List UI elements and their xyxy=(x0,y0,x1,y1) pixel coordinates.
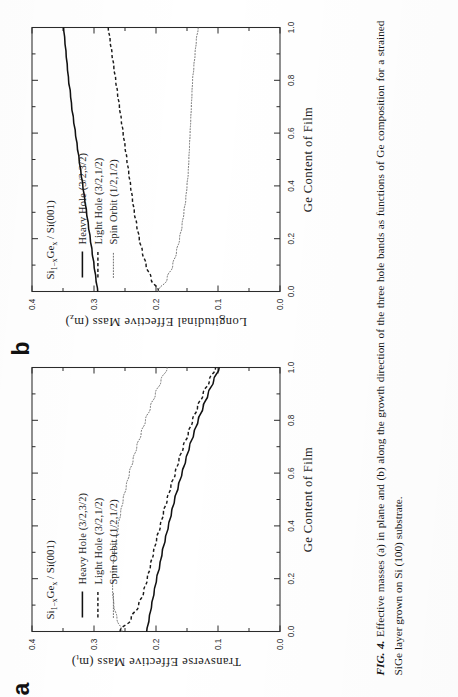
x-tick-label: 0.6 xyxy=(286,466,296,478)
panel-label-a: a xyxy=(8,683,35,695)
curve-solid xyxy=(147,367,220,631)
svg-text:Transverse Effective Mass (mt): Transverse Effective Mass (mt) xyxy=(71,652,240,668)
caption-body: Effective masses (a) in plane and (b) al… xyxy=(374,20,404,675)
x-tick-label: 0.6 xyxy=(286,126,296,138)
figure-caption: FIG. 4. Effective masses (a) in plane an… xyxy=(372,20,407,675)
y-axis-title: Longitudinal Effective Mass (mz) xyxy=(65,312,247,328)
x-axis-title: Ge Content of Film xyxy=(301,446,315,552)
x-tick-label: 1.0 xyxy=(286,21,296,33)
curve-dotted xyxy=(158,27,198,291)
legend-label: Light Hole (3/2,1/2) xyxy=(93,157,105,244)
svg-text:Longitudinal Effective Mass (m: Longitudinal Effective Mass (mz) xyxy=(65,312,247,328)
chart-panel-a: 0.00.20.40.60.81.00.00.10.20.30.4Ge Cont… xyxy=(18,357,348,675)
y-tick-label: 0.1 xyxy=(213,638,223,650)
plot-annotation: Si1−xGex / Si(001) xyxy=(44,199,59,279)
x-tick-label: 0.8 xyxy=(286,414,296,426)
x-tick-label: 0.2 xyxy=(286,232,296,244)
legend-label: Heavy Hole (3/2,3/2) xyxy=(77,492,89,584)
y-tick-label: 0.4 xyxy=(27,298,37,310)
plot-annotation: Si1−xGex / Si(001) xyxy=(44,539,59,619)
y-tick-label: 0.3 xyxy=(89,638,99,650)
y-tick-label: 0.4 xyxy=(27,638,37,650)
figure-page: a b 0.00.20.40.60.81.00.00.10.20.30.4Ge … xyxy=(0,0,458,697)
figure-container: a b 0.00.20.40.60.81.00.00.10.20.30.4Ge … xyxy=(0,0,458,697)
curve-dotted xyxy=(113,367,168,631)
curve-dashed xyxy=(120,367,215,631)
x-tick-label: 0.0 xyxy=(286,285,296,297)
plot-b: 0.00.20.40.60.81.00.00.10.20.30.4Ge Cont… xyxy=(18,17,348,335)
y-tick-label: 0.2 xyxy=(151,638,161,650)
x-tick-label: 0.8 xyxy=(286,74,296,86)
x-axis-title: Ge Content of Film xyxy=(301,106,315,212)
y-tick-label: 0.2 xyxy=(151,298,161,310)
legend-label: Spin Orbit (1/2,1/2) xyxy=(108,499,120,584)
x-tick-label: 0.0 xyxy=(286,625,296,637)
y-tick-label: 0.3 xyxy=(89,298,99,310)
caption-figure-number: FIG. 4. xyxy=(374,640,386,675)
panel-label-b: b xyxy=(8,341,35,355)
plot-a: 0.00.20.40.60.81.00.00.10.20.30.4Ge Cont… xyxy=(18,357,348,675)
x-tick-label: 0.2 xyxy=(286,572,296,584)
x-tick-label: 0.4 xyxy=(286,179,296,191)
x-tick-label: 1.0 xyxy=(286,361,296,373)
chart-panel-b: 0.00.20.40.60.81.00.00.10.20.30.4Ge Cont… xyxy=(18,17,348,335)
legend-label: Heavy Hole (3/2,3/2) xyxy=(77,152,89,244)
y-tick-label: 0.1 xyxy=(213,298,223,310)
legend-label: Light Hole (3/2,1/2) xyxy=(93,497,105,584)
y-tick-label: 0.0 xyxy=(275,638,285,650)
legend-label: Spin Orbit (1/2,1/2) xyxy=(108,159,120,244)
x-tick-label: 0.4 xyxy=(286,519,296,531)
y-axis-title: Transverse Effective Mass (mt) xyxy=(71,652,240,668)
y-tick-label: 0.0 xyxy=(275,298,285,310)
